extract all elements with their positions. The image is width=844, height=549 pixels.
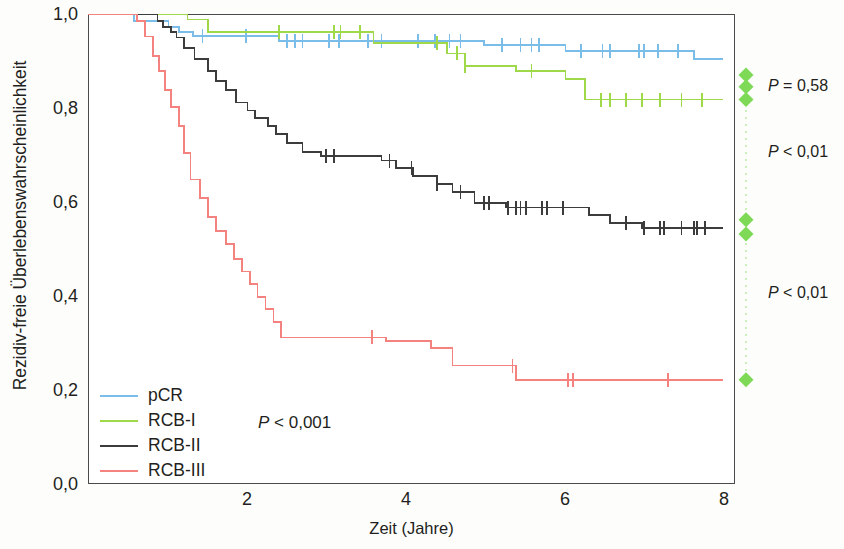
y-tick-label-3: 0,6	[24, 192, 78, 213]
pairwise-p-number-2: < 0,01	[779, 143, 828, 160]
pairwise-p-value-3: P < 0,01	[768, 284, 828, 302]
legend-swatch-rcb-iii	[100, 470, 138, 472]
curve-rcb-ii	[88, 14, 723, 228]
y-tick-label-6: 0,0	[24, 474, 78, 495]
legend: pCR RCB-I RCB-II RCB-III	[100, 383, 205, 483]
legend-label-rcb-iii: RCB-III	[148, 458, 205, 483]
x-tick-label-4: 8	[719, 489, 729, 510]
y-tick-label-5: 0,2	[24, 380, 78, 401]
comparison-diamond-marker	[739, 212, 754, 227]
legend-item-pcr: pCR	[100, 383, 205, 408]
x-axis-title: Zeit (Jahre)	[88, 519, 735, 538]
x-tick-label-1: 2	[242, 489, 252, 510]
comparison-diamond-marker	[739, 92, 754, 107]
censor-marks-rcb-ii	[326, 149, 705, 235]
legend-swatch-rcb-ii	[100, 445, 138, 447]
curve-rcb-iii	[88, 14, 723, 380]
legend-label-pcr: pCR	[148, 383, 183, 408]
comparison-diamond-marker	[739, 372, 754, 387]
legend-swatch-rcb-i	[100, 420, 138, 422]
pairwise-p-number-3: < 0,01	[779, 284, 828, 301]
legend-swatch-pcr	[100, 395, 138, 397]
pairwise-p-prefix-1: P	[768, 77, 779, 94]
pairwise-p-value-1: P = 0,58	[768, 77, 828, 95]
curve-pcr	[88, 14, 723, 59]
legend-label-rcb-ii: RCB-II	[148, 433, 201, 458]
y-tick-label-4: 0,4	[24, 286, 78, 307]
pairwise-p-number-1: = 0,58	[779, 77, 828, 94]
kaplan-meier-figure: Rezidiv-freie Überlebenswahrscheinlichke…	[0, 0, 844, 549]
pairwise-p-prefix-2: P	[768, 143, 779, 160]
legend-item-rcb-i: RCB-I	[100, 408, 205, 433]
legend-item-rcb-ii: RCB-II	[100, 433, 205, 458]
pairwise-p-prefix-3: P	[768, 284, 779, 301]
censor-marks-rcb-iii	[372, 330, 668, 386]
y-tick-label-2: 0,8	[24, 98, 78, 119]
y-tick-label-1: 1,0	[24, 4, 78, 25]
x-tick-label-3: 6	[560, 489, 570, 510]
pairwise-p-value-2: P < 0,01	[768, 143, 828, 161]
y-axis-ticks: 1,0 0,8 0,6 0,4 0,2 0,0	[0, 0, 78, 549]
legend-item-rcb-iii: RCB-III	[100, 458, 205, 483]
comparison-diamond-marker	[739, 226, 754, 241]
x-tick-label-2: 4	[401, 489, 411, 510]
legend-label-rcb-i: RCB-I	[148, 408, 196, 433]
overall-p-value: P < 0,001	[258, 413, 331, 433]
overall-p-prefix: P	[258, 413, 269, 432]
overall-p-number: < 0,001	[269, 413, 331, 432]
curve-rcb-i	[88, 14, 723, 100]
